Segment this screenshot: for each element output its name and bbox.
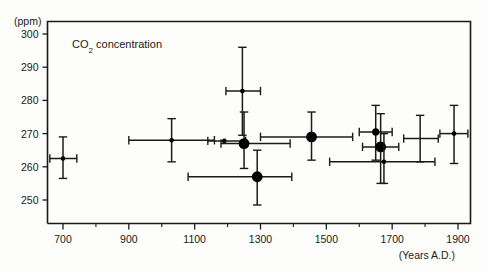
y-tick-label: 290	[21, 61, 39, 73]
data-marker	[61, 156, 66, 161]
data-point	[188, 150, 292, 205]
x-tick-label: 1500	[315, 233, 339, 245]
x-tick-label: 1300	[249, 233, 273, 245]
data-marker	[169, 138, 174, 143]
plot-frame	[48, 22, 471, 224]
x-tick-label: 900	[120, 233, 138, 245]
data-points-layer	[50, 47, 468, 205]
y-tick-label: 260	[21, 161, 39, 173]
x-tick-label: 1900	[446, 233, 470, 245]
data-point	[129, 119, 215, 162]
data-point	[359, 105, 392, 160]
data-point	[440, 105, 468, 163]
data-point	[404, 115, 439, 161]
data-point	[261, 112, 353, 160]
data-point	[50, 137, 77, 179]
data-marker	[382, 160, 387, 165]
co2-concentration-figure: 250260270280290300 700900110013001500170…	[0, 0, 488, 273]
y-tick-label: 280	[21, 94, 39, 106]
data-marker	[222, 139, 227, 144]
chart-canvas: 250260270280290300 700900110013001500170…	[0, 0, 488, 273]
data-point	[330, 134, 435, 184]
x-axis-ticks: 70090011001300150017001900	[54, 224, 470, 245]
chart-title: CO2 concentration	[72, 38, 162, 55]
data-point	[226, 47, 261, 135]
data-point	[363, 114, 399, 184]
x-tick-label: 700	[54, 233, 72, 245]
data-marker	[372, 128, 379, 135]
data-marker	[239, 138, 250, 149]
y-axis-ticks: 250260270280290300	[21, 28, 48, 206]
x-tick-label: 1700	[380, 233, 404, 245]
y-axis-unit-label: (ppm)	[14, 15, 41, 27]
y-tick-label: 270	[21, 128, 39, 140]
data-marker	[306, 132, 317, 143]
data-marker	[252, 171, 263, 182]
x-axis-label: (Years A.D.)	[399, 249, 455, 261]
y-tick-label: 300	[21, 28, 39, 40]
x-tick-label: 1100	[183, 233, 206, 245]
data-marker	[452, 131, 457, 136]
y-tick-label: 250	[21, 194, 39, 206]
plot-border	[48, 22, 471, 224]
data-marker	[240, 89, 245, 94]
